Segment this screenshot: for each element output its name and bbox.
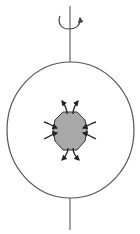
- rotating-sphere-diagram: [0, 0, 140, 234]
- inner-body: [53, 112, 87, 150]
- diagram-canvas: [0, 0, 140, 234]
